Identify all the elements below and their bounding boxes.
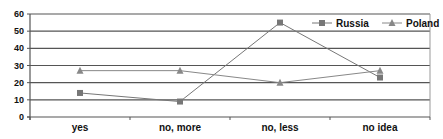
triangle-marker <box>377 67 384 74</box>
series-russia <box>77 20 383 105</box>
y-tick-label: 40 <box>14 43 24 53</box>
line-chart: 0102030405060 yesno, moreno, lessno idea… <box>0 0 443 139</box>
x-category-label: no, less <box>261 122 299 133</box>
y-tick-label: 60 <box>14 9 24 19</box>
series-line <box>80 71 380 83</box>
square-marker <box>177 99 183 105</box>
x-axis-ticks: yesno, moreno, lessno idea <box>30 117 430 133</box>
y-tick-label: 0 <box>19 112 24 122</box>
square-marker <box>277 20 283 26</box>
legend-item-russia: Russia <box>312 18 369 29</box>
series-group <box>77 20 384 105</box>
x-category-label: no idea <box>362 122 397 133</box>
gridlines <box>30 14 430 100</box>
y-tick-label: 30 <box>14 61 24 71</box>
legend: RussiaPoland <box>312 18 439 29</box>
y-tick-label: 20 <box>14 78 24 88</box>
legend-label: Russia <box>336 18 369 29</box>
square-marker <box>77 90 83 96</box>
y-tick-label: 50 <box>14 26 24 36</box>
series-line <box>80 23 380 102</box>
y-axis-ticks: 0102030405060 <box>14 9 30 122</box>
x-category-label: no, more <box>159 122 202 133</box>
legend-item-poland: Poland <box>382 18 439 29</box>
y-tick-label: 10 <box>14 95 24 105</box>
square-marker <box>319 20 325 26</box>
x-category-label: yes <box>72 122 89 133</box>
axes <box>27 14 430 120</box>
square-marker <box>377 75 383 81</box>
legend-label: Poland <box>406 18 439 29</box>
